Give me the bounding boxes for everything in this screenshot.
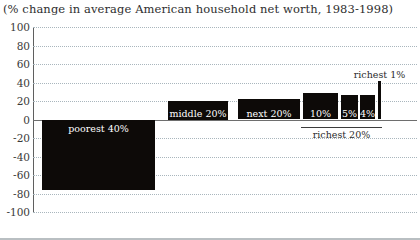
y-tick-label-40: 40 (0, 77, 30, 89)
y-tick-label-100: 100 (0, 21, 30, 33)
y-tick-label-neg60: -60 (0, 169, 30, 181)
gridline-neg80 (33, 194, 417, 195)
bar-label-middle-20-: middle 20% (169, 108, 226, 119)
gridline-100 (33, 27, 417, 28)
y-tick-label-neg20: -20 (0, 132, 30, 144)
bar-label-richest-1-: richest 1% (354, 69, 405, 80)
y-tick-label-0: 0 (0, 114, 30, 126)
chart-figure: (% change in average American household … (0, 0, 420, 240)
y-tick-label-neg100: -100 (0, 206, 30, 218)
gridline-neg100 (33, 212, 417, 213)
bar-label-4-: 4% (360, 108, 375, 119)
bar-richest-1-[interactable] (378, 81, 381, 120)
chart-title: (% change in average American household … (3, 2, 393, 16)
bar-label-5-: 5% (342, 108, 357, 119)
bar-label-poorest-40-: poorest 40% (68, 123, 129, 134)
bracket-label: richest 20% (313, 129, 370, 140)
bracket-line (301, 127, 382, 128)
gridline-80 (33, 46, 417, 47)
gridline-40 (33, 83, 417, 84)
gridline-60 (33, 64, 417, 65)
y-tick-label-60: 60 (0, 58, 30, 70)
plot-area: poorest 40%middle 20%next 20%10%5%4%rich… (33, 27, 417, 212)
y-tick-label-20: 20 (0, 95, 30, 107)
y-tick-label-neg40: -40 (0, 151, 30, 163)
y-axis-tick-labels: 100806040200-20-40-60-80-100 (0, 27, 30, 212)
bar-label-10-: 10% (310, 108, 331, 119)
y-tick-label-neg80: -80 (0, 188, 30, 200)
bar-label-next-20-: next 20% (246, 108, 291, 119)
y-tick-label-80: 80 (0, 40, 30, 52)
